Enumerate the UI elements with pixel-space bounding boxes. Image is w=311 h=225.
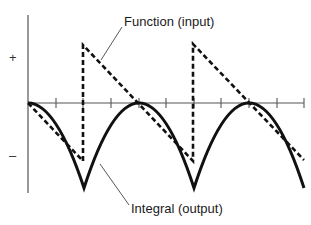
integral-leader-line (100, 164, 129, 205)
function-leader-line (101, 27, 122, 60)
function-input-label: Function (input) (124, 15, 214, 28)
positive-sign: + (9, 51, 17, 64)
integral-output-label: Integral (output) (131, 202, 223, 215)
negative-sign: – (9, 149, 16, 162)
integration-diagram (0, 0, 311, 225)
